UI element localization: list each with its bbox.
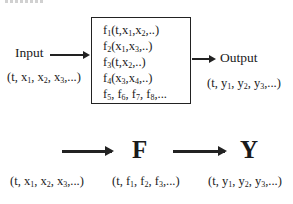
input-tuple: (t, x1, x2, x3,...) bbox=[7, 70, 81, 85]
function-f5-f8: f5, f6, f7, f8,... bbox=[103, 86, 167, 102]
bottom-y-tuple: (t, y1, y2, y3,...) bbox=[208, 174, 282, 189]
output-arrow bbox=[192, 58, 214, 60]
output-tuple: (t, y1, y2, y3,...) bbox=[207, 76, 281, 91]
input-label: Input bbox=[15, 45, 44, 61]
cropped-caption-fragment bbox=[5, 0, 45, 3]
node-y: Y bbox=[240, 136, 258, 164]
f-to-y-arrow bbox=[173, 150, 225, 153]
x-to-f-arrow bbox=[62, 150, 112, 153]
function-f1: f1(t,x1,x2,..) bbox=[103, 22, 167, 38]
function-f4: f4(x3,x4,..) bbox=[103, 70, 167, 86]
node-f: F bbox=[132, 136, 147, 164]
function-f2: f2(x1,x3,..) bbox=[103, 38, 167, 54]
bottom-f-tuple: (t, f1, f2, f3,...) bbox=[112, 174, 180, 189]
bottom-input-tuple: (t, x1, x2, x3,...) bbox=[10, 174, 84, 189]
function-f3: f3(t,x2,..) bbox=[103, 54, 167, 70]
function-list: f1(t,x1,x2,..) f2(x1,x3,..) f3(t,x2,..) … bbox=[103, 22, 167, 102]
input-arrow bbox=[50, 54, 88, 56]
output-label: Output bbox=[220, 50, 258, 66]
